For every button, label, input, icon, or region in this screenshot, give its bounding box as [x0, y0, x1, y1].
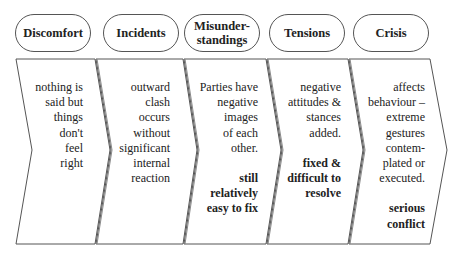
emphasis-text: still relatively easy to fix	[200, 171, 258, 217]
text-line: difficult to	[287, 171, 341, 186]
text-line: reaction	[119, 171, 170, 186]
text-line: things	[35, 110, 83, 125]
text-line: still	[200, 171, 258, 186]
text-line: gestures	[368, 126, 425, 141]
text-line: nothing is	[35, 80, 83, 95]
text-line: images	[200, 110, 258, 125]
text-line: stances	[287, 110, 341, 125]
text-line: clash	[119, 95, 170, 110]
stage-text-crisis: affects behaviour – extreme gestures con…	[368, 80, 425, 232]
text-line: without	[119, 126, 170, 141]
text-line: right	[35, 156, 83, 171]
stage-text-discomfort: nothing is said but things don't feel ri…	[35, 80, 83, 171]
text-line: fixed &	[287, 156, 341, 171]
text-line: executed.	[368, 171, 425, 186]
text-line: occurs	[119, 110, 170, 125]
text-line: easy to fix	[200, 201, 258, 216]
text-line: feel	[35, 141, 83, 156]
text-line: serious	[368, 201, 425, 216]
text-line: attitudes &	[287, 95, 341, 110]
text-line: internal	[119, 156, 170, 171]
emphasis-text: serious conflict	[368, 201, 425, 231]
emphasis-text: fixed & difficult to resolve	[287, 156, 341, 202]
text-line: Parties have	[200, 80, 258, 95]
text-line: negative	[200, 95, 258, 110]
text-line: don't	[35, 126, 83, 141]
text-line: contem-	[368, 141, 425, 156]
text-line: other.	[200, 141, 258, 156]
text-line: significant	[119, 141, 170, 156]
text-line: behaviour –	[368, 95, 425, 110]
text-line: outward	[119, 80, 170, 95]
stage-text-misunderstandings: Parties have negative images of each oth…	[200, 80, 258, 217]
stage-text-tensions: negative attitudes & stances added. fixe…	[287, 80, 341, 201]
text-line: plated or	[368, 156, 425, 171]
text-line: negative	[287, 80, 341, 95]
text-line: extreme	[368, 110, 425, 125]
text-line: of each	[200, 126, 258, 141]
text-line: added.	[287, 126, 341, 141]
text-line: affects	[368, 80, 425, 95]
text-line: conflict	[368, 217, 425, 232]
text-line: resolve	[287, 186, 341, 201]
text-line: relatively	[200, 186, 258, 201]
text-line: said but	[35, 95, 83, 110]
stage-text-incidents: outward clash occurs without significant…	[119, 80, 170, 186]
